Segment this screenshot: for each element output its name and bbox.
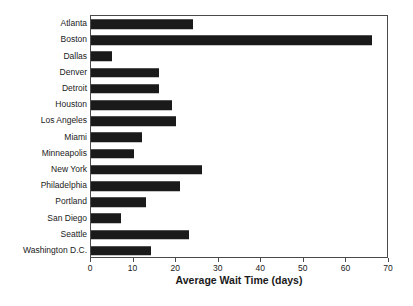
x-axis-tick-label: 50: [298, 263, 307, 273]
y-axis-tick-label: Atlanta: [1, 18, 87, 28]
bar: [91, 19, 193, 29]
y-axis-tick-label: Boston: [1, 34, 87, 44]
y-axis-tick-label: New York: [1, 164, 87, 174]
bar-row: [91, 32, 387, 48]
bar-row: [91, 129, 387, 145]
bar: [91, 36, 372, 46]
x-axis-tick-mark: [260, 258, 261, 262]
y-axis-tick-label: Houston: [1, 99, 87, 109]
x-axis-tick-label: 0: [88, 263, 93, 273]
bar-row: [91, 113, 387, 129]
bar: [91, 149, 134, 159]
x-axis-tick-mark: [175, 258, 176, 262]
y-axis-tick-label: Philadelphia: [1, 180, 87, 190]
bar: [91, 246, 151, 256]
bar-row: [91, 146, 387, 162]
y-axis-tick-label: Seattle: [1, 229, 87, 239]
y-axis-tick-label: San Diego: [1, 213, 87, 223]
y-axis-tick-label: Denver: [1, 67, 87, 77]
bar: [91, 181, 180, 191]
bar-row: [91, 97, 387, 113]
x-axis-tick-label: 30: [213, 263, 222, 273]
bar: [91, 68, 159, 78]
x-axis-tick-label: 40: [256, 263, 265, 273]
x-axis-tick-label: 70: [383, 263, 392, 273]
bar-row: [91, 194, 387, 210]
bar: [91, 100, 172, 110]
x-axis-tick-mark: [133, 258, 134, 262]
x-axis-tick-label: 10: [128, 263, 137, 273]
x-axis-tick-label: 60: [341, 263, 350, 273]
plot-area: [90, 15, 388, 258]
y-axis-tick-label: Detroit: [1, 83, 87, 93]
bar: [91, 52, 112, 62]
bar: [91, 117, 176, 127]
y-axis-tick-label: Los Angeles: [1, 115, 87, 125]
y-axis-tick-labels: AtlantaBostonDallasDenverDetroitHoustonL…: [0, 15, 87, 258]
bar: [91, 84, 159, 94]
bar-row: [91, 65, 387, 81]
bar: [91, 165, 202, 175]
bar-row: [91, 210, 387, 226]
bar-row: [91, 162, 387, 178]
bar-row: [91, 178, 387, 194]
bar-row: [91, 81, 387, 97]
bar-row: [91, 16, 387, 32]
x-axis-tick-mark: [218, 258, 219, 262]
bar: [91, 230, 189, 240]
y-axis-tick-label: Miami: [1, 132, 87, 142]
y-axis-tick-label: Minneapolis: [1, 148, 87, 158]
y-axis-tick-label: Dallas: [1, 51, 87, 61]
x-axis-title: Average Wait Time (days): [90, 274, 388, 286]
x-axis-tick-mark: [388, 258, 389, 262]
x-axis-tick-mark: [345, 258, 346, 262]
bar-row: [91, 48, 387, 64]
bar-row: [91, 227, 387, 243]
x-axis-tick-label: 20: [170, 263, 179, 273]
bar: [91, 214, 121, 224]
x-axis-tick-mark: [303, 258, 304, 262]
y-axis-tick-label: Portland: [1, 196, 87, 206]
bar: [91, 198, 146, 208]
bar: [91, 133, 142, 143]
x-axis-tick-mark: [90, 258, 91, 262]
y-axis-tick-label: Washington D.C.: [1, 245, 87, 255]
bar-row: [91, 243, 387, 259]
bar-chart: AtlantaBostonDallasDenverDetroitHoustonL…: [0, 0, 413, 306]
